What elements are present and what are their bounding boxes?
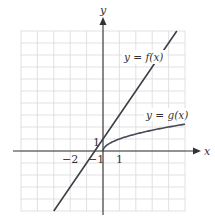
function-graph: x y −2 1 1 −1 y = f(x) y = g(x) — [0, 0, 215, 223]
x-axis-arrow-icon — [193, 148, 201, 155]
y-tick-label-neg1: −1 — [88, 153, 104, 166]
series-line-g — [103, 124, 185, 151]
x-tick-label-1: 1 — [116, 153, 123, 166]
series-label-g: y = g(x) — [145, 109, 188, 121]
series-label-f: y = f(x) — [123, 51, 163, 63]
x-axis-label: x — [204, 145, 211, 158]
x-tick-label-neg2: −2 — [62, 153, 78, 166]
y-axis-label: y — [99, 4, 107, 17]
y-axis-arrow-icon — [100, 17, 107, 25]
y-tick-label-1: 1 — [93, 136, 100, 149]
